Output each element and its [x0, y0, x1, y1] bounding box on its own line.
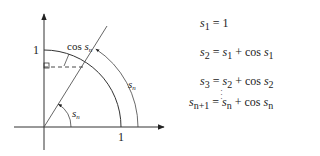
- unit-arc: [44, 50, 121, 127]
- equation-n: sn+1 = sn + cos sn: [189, 95, 273, 111]
- equation-2: s2 = s1 + cos s1: [200, 45, 274, 61]
- equation-1: s1 = 1: [200, 16, 228, 32]
- arc-length-label: sn: [128, 78, 136, 92]
- cos-label: cos sn: [67, 40, 93, 54]
- equation-3: s3 = s2 + cos s2: [200, 74, 274, 90]
- angle-label: sn: [72, 107, 80, 121]
- x-axis-one-label: 1: [118, 130, 124, 144]
- cos-leader-line: [64, 54, 69, 66]
- y-axis-one-label: 1: [33, 43, 39, 57]
- angle-arc: [58, 104, 71, 127]
